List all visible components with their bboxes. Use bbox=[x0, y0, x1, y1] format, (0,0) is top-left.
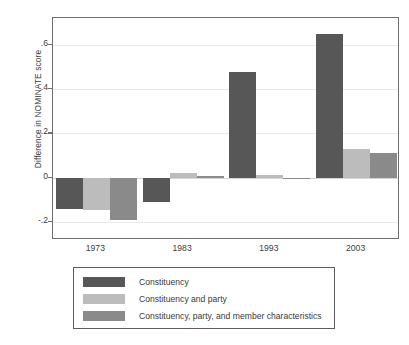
plot-area bbox=[52, 17, 399, 239]
legend-swatch bbox=[83, 311, 125, 321]
gridline bbox=[53, 133, 398, 134]
bar bbox=[110, 178, 137, 220]
bar bbox=[343, 149, 370, 178]
legend-item: Constituency and party bbox=[74, 290, 334, 307]
chart-legend: ConstituencyConstituency and partyConsti… bbox=[73, 267, 335, 329]
bar bbox=[170, 173, 197, 177]
bar bbox=[316, 34, 343, 178]
y-tick-label: .4 bbox=[8, 82, 48, 92]
gridline bbox=[53, 45, 398, 46]
y-tick-label: -.2 bbox=[8, 215, 48, 225]
bar-chart-figure: Difference in NOMINATE score .6.4.20-.2 … bbox=[0, 0, 409, 345]
bar bbox=[256, 175, 283, 178]
x-tick-label: 2003 bbox=[326, 243, 386, 253]
y-tick-label: .2 bbox=[8, 126, 48, 136]
legend-item: Constituency, party, and member characte… bbox=[74, 307, 334, 324]
legend-label: Constituency and party bbox=[139, 294, 227, 304]
legend-label: Constituency bbox=[139, 277, 189, 287]
bar bbox=[83, 178, 110, 210]
x-tick-label: 1983 bbox=[152, 243, 212, 253]
x-tick-label: 1973 bbox=[65, 243, 125, 253]
bar bbox=[229, 72, 256, 177]
gridline bbox=[53, 222, 398, 223]
bar bbox=[197, 176, 224, 178]
legend-swatch bbox=[83, 294, 125, 304]
x-tick-label: 1993 bbox=[239, 243, 299, 253]
bar bbox=[56, 178, 83, 209]
bar bbox=[283, 178, 310, 179]
bar bbox=[143, 178, 170, 202]
gridline bbox=[53, 89, 398, 90]
legend-item: Constituency bbox=[74, 273, 334, 290]
y-tick-label: 0 bbox=[8, 171, 48, 181]
legend-label: Constituency, party, and member characte… bbox=[139, 311, 322, 321]
bar bbox=[370, 153, 397, 177]
legend-swatch bbox=[83, 277, 125, 287]
y-tick-label: .6 bbox=[8, 38, 48, 48]
